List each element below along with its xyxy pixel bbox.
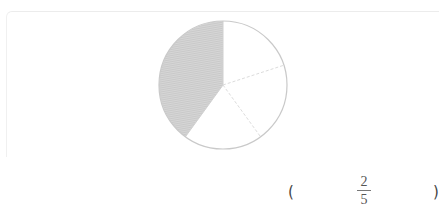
numerator: 2 bbox=[357, 174, 371, 189]
answer-fraction: 2 5 bbox=[357, 174, 371, 207]
open-paren: ( bbox=[288, 183, 294, 201]
denominator: 5 bbox=[357, 192, 371, 207]
fraction-pie-chart bbox=[0, 0, 444, 212]
dashed-divider-lower-right bbox=[223, 85, 261, 137]
fraction-bar bbox=[357, 190, 371, 191]
dashed-divider-right bbox=[223, 65, 284, 85]
close-paren: ) bbox=[433, 183, 439, 201]
